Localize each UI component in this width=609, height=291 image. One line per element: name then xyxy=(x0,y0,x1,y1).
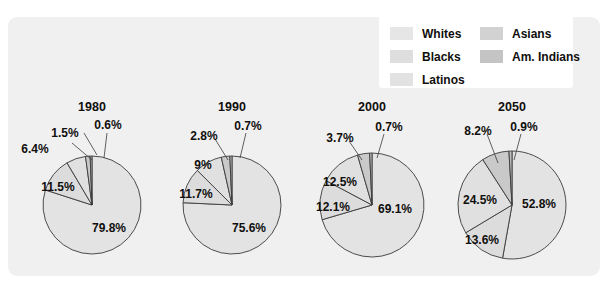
legend-item-whites: Whites xyxy=(390,22,465,45)
value-2000-asians: 3.7% xyxy=(326,131,353,145)
value-2000-latinos: 12.5% xyxy=(323,175,357,189)
legend-swatch-whites xyxy=(390,27,413,40)
year-label-2000: 2000 xyxy=(358,100,386,114)
label-leader-line xyxy=(240,133,246,158)
value-2050-am-indians: 0.9% xyxy=(510,120,537,134)
value-1980-latinos: 6.4% xyxy=(21,142,48,156)
value-1980-am-indians: 0.6% xyxy=(94,118,121,132)
label-leader-line xyxy=(104,133,107,158)
value-1980-blacks: 11.5% xyxy=(41,180,74,194)
legend-label-am-indians: Am. Indians xyxy=(512,50,580,64)
value-2050-latinos: 24.5% xyxy=(463,193,497,207)
legend-column-left: Whites Blacks Latinos xyxy=(390,22,465,91)
legend-label-asians: Asians xyxy=(512,27,551,41)
legend-item-latinos: Latinos xyxy=(390,68,465,91)
value-1990-am-indians: 0.7% xyxy=(234,119,261,133)
legend-swatch-asians xyxy=(480,27,503,40)
year-label-2050: 2050 xyxy=(498,100,526,114)
legend-swatch-blacks xyxy=(390,50,413,63)
year-label-1990: 1990 xyxy=(218,100,246,114)
legend-swatch-am-indians xyxy=(480,50,503,63)
value-1990-whites: 75.6% xyxy=(232,221,266,235)
value-2000-blacks: 12.1% xyxy=(316,200,350,214)
value-1990-latinos: 9% xyxy=(194,158,211,172)
chart-legend: Whites Blacks Latinos Asians Am. Indians xyxy=(379,8,573,88)
figure-root: Whites Blacks Latinos Asians Am. Indians… xyxy=(0,0,609,291)
value-2050-asians: 8.2% xyxy=(464,124,491,138)
legend-item-asians: Asians xyxy=(480,22,580,45)
legend-column-right: Asians Am. Indians xyxy=(480,22,580,68)
legend-label-latinos: Latinos xyxy=(422,73,465,87)
legend-label-blacks: Blacks xyxy=(422,50,461,64)
value-1990-asians: 2.8% xyxy=(190,129,217,143)
value-2050-whites: 52.8% xyxy=(522,197,556,211)
value-2000-whites: 69.1% xyxy=(378,202,412,216)
legend-item-am-indians: Am. Indians xyxy=(480,45,580,68)
value-1980-whites: 79.8% xyxy=(92,221,126,235)
value-2050-blacks: 13.6% xyxy=(465,233,499,247)
label-leader-line xyxy=(84,133,97,155)
legend-label-whites: Whites xyxy=(422,27,461,41)
value-2000-am-indians: 0.7% xyxy=(375,120,402,134)
year-label-1980: 1980 xyxy=(78,100,106,114)
value-1980-asians: 1.5% xyxy=(51,126,78,140)
legend-swatch-latinos xyxy=(390,73,413,86)
legend-item-blacks: Blacks xyxy=(390,45,465,68)
value-1990-blacks: 11.7% xyxy=(179,187,212,201)
